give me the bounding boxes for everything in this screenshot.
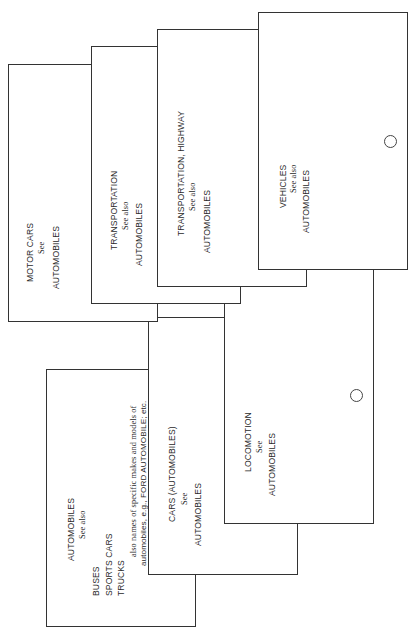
- card-face: LOCOMOTION See AUTOMOBILES: [224, 266, 374, 524]
- see-also-label: See also: [188, 183, 198, 211]
- see-also-label: See also: [78, 511, 88, 539]
- card-heading: LOCOMOTION: [243, 412, 253, 472]
- ref-trucks: TRUCKS: [116, 560, 126, 596]
- card-face: VEHICLES See also AUTOMOBILES: [258, 12, 408, 270]
- card-reference: AUTOMOBILES: [51, 226, 61, 289]
- catalog-card-vehicles: VEHICLES See also AUTOMOBILES: [258, 12, 408, 270]
- note-line-1: also names of specific makes and models …: [129, 406, 139, 557]
- see-label: See: [180, 493, 190, 505]
- card-heading: MOTOR CARS: [25, 223, 35, 282]
- ref-buses: BUSES: [91, 566, 101, 596]
- catalog-card-locomotion: LOCOMOTION See AUTOMOBILES: [224, 266, 374, 524]
- card-heading: VEHICLES: [278, 165, 288, 208]
- card-reference: AUTOMOBILES: [202, 190, 212, 253]
- card-heading: CARS (AUTOMOBILES): [167, 426, 177, 522]
- punch-hole-icon: [384, 135, 397, 148]
- see-label: See: [255, 441, 265, 453]
- card-reference: AUTOMOBILES: [193, 483, 203, 546]
- card-heading: AUTOMOBILES: [66, 498, 76, 561]
- see-also-label: See also: [289, 165, 299, 193]
- card-reference: AUTOMOBILES: [301, 170, 311, 233]
- see-label: See: [37, 242, 47, 254]
- card-heading: TRANSPORTATION, HIGHWAY: [176, 111, 186, 236]
- punch-hole-icon: [350, 389, 363, 402]
- card-heading: TRANSPORTATION: [109, 171, 119, 250]
- see-also-label: See also: [121, 202, 131, 230]
- card-reference: AUTOMOBILES: [267, 433, 277, 496]
- ref-sports-cars: SPORTS CARS: [104, 533, 114, 596]
- card-reference: AUTOMOBILES: [134, 203, 144, 266]
